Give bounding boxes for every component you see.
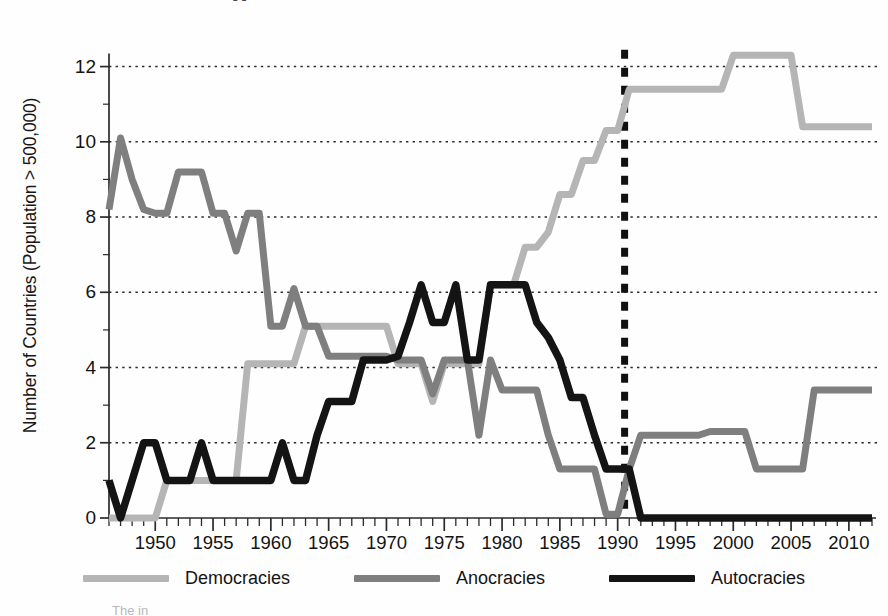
line-chart-svg (109, 44, 872, 518)
y-axis-tick-label: 4 (62, 357, 96, 379)
cropped-title-artifact: g (232, 0, 248, 1)
legend-label: Anocracies (456, 568, 545, 589)
legend-swatch-icon (83, 575, 169, 582)
x-axis-tick-label: 1985 (539, 532, 580, 554)
x-axis-tick-label: 1965 (308, 532, 349, 554)
chart-legend: DemocraciesAnocraciesAutocracies (0, 563, 888, 593)
legend-item-anocracies[interactable]: Anocracies (354, 568, 545, 589)
x-axis-tick-label: 1990 (597, 532, 638, 554)
x-axis-tick-label: 1970 (366, 532, 407, 554)
y-axis-tick-label: 8 (62, 206, 96, 228)
chart-figure: g Number of Countries (Population > 500,… (0, 0, 888, 616)
x-axis-tick-label: 1975 (424, 532, 465, 554)
legend-item-autocracies[interactable]: Autocracies (609, 568, 805, 589)
legend-label: Autocracies (711, 568, 805, 589)
series-line-autocracies (109, 285, 872, 518)
y-axis-tick-label: 0 (62, 507, 96, 529)
x-axis-tick-label: 2000 (713, 532, 754, 554)
legend-swatch-icon (354, 575, 440, 582)
y-axis-title: Number of Countries (Population > 500,00… (20, 31, 41, 501)
y-axis-tick-label: 10 (62, 131, 96, 153)
plot-area: 024681012 195019551960196519701975198019… (109, 44, 872, 518)
y-axis-tick-label: 6 (62, 281, 96, 303)
x-axis-tick-label: 2005 (770, 532, 811, 554)
x-axis-tick-label: 1960 (250, 532, 291, 554)
x-axis-tick-label: 1955 (192, 532, 233, 554)
x-axis-tick-label: 2010 (828, 532, 869, 554)
y-axis-tick-label: 12 (62, 56, 96, 78)
legend-swatch-icon (609, 575, 695, 582)
legend-label: Democracies (185, 568, 290, 589)
x-axis-tick-label: 1995 (655, 532, 696, 554)
x-axis-tick-label: 1950 (135, 532, 176, 554)
y-axis-tick-label: 2 (62, 432, 96, 454)
series-line-anocracies (109, 138, 872, 514)
legend-item-democracies[interactable]: Democracies (83, 568, 290, 589)
cropped-caption-artifact: The in (112, 604, 868, 616)
x-axis-tick-label: 1980 (481, 532, 522, 554)
